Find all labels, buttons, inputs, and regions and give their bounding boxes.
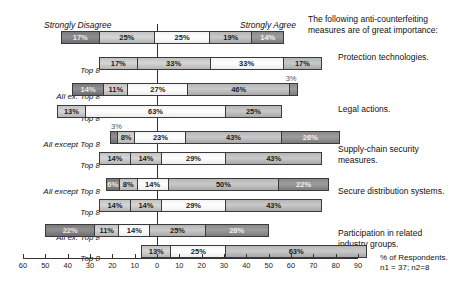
bar-segment: 17% bbox=[62, 32, 100, 43]
axis-tick-label: 30 bbox=[86, 261, 94, 270]
axis-tick bbox=[90, 254, 91, 258]
axis-tick-label: 0 bbox=[155, 261, 159, 270]
axis-tick-label: 50 bbox=[264, 261, 272, 270]
bar-segment: 17% bbox=[284, 58, 322, 69]
bar-segment-value: 11% bbox=[99, 227, 114, 235]
bar-segment: 63% bbox=[86, 106, 225, 117]
bar-segment-value: 29% bbox=[186, 155, 201, 163]
category-label-secure-distribution-systems: Secure distribution systems. bbox=[338, 186, 454, 197]
axis-tick bbox=[179, 254, 180, 258]
bar-segment-value: 14% bbox=[107, 155, 122, 163]
bar-segment: 43% bbox=[226, 200, 321, 211]
axis-title: % of Respondents. bbox=[380, 253, 448, 263]
axis-tick bbox=[68, 254, 69, 258]
bar-segment-value: 8% bbox=[121, 134, 132, 142]
axis-tick bbox=[202, 254, 203, 258]
bar-segment-value: 46% bbox=[231, 86, 246, 94]
bar-row: 14%14%29%43% bbox=[99, 199, 322, 212]
bar-segment-value: 25% bbox=[191, 248, 206, 256]
category-label-protection-technologies: Protection technologies. bbox=[338, 52, 454, 63]
bar-segment: 28% bbox=[206, 225, 268, 236]
sample-size-note: n1 = 37; n2=8 bbox=[380, 263, 429, 273]
axis-tick-label: 20 bbox=[108, 261, 116, 270]
axis-tick-label: 60 bbox=[19, 261, 27, 270]
bar-segment-value: 17% bbox=[295, 60, 310, 68]
bar-segment-value: 25% bbox=[119, 34, 134, 42]
bar-segment-value: 26% bbox=[303, 134, 318, 142]
bar-segment-value: 43% bbox=[266, 202, 281, 210]
bar-segment: 6% bbox=[107, 179, 120, 190]
bar-segment-value: 13% bbox=[64, 108, 79, 116]
axis-tick bbox=[291, 254, 292, 258]
bar-row: 6%8%14%50%22% bbox=[106, 178, 329, 191]
bar-segment: 33% bbox=[138, 58, 211, 69]
outside-value-label: 3% bbox=[286, 74, 297, 83]
bar-segment: 46% bbox=[188, 84, 290, 95]
bar-segment-value: 14% bbox=[145, 181, 160, 189]
bar-segment: 25% bbox=[226, 106, 281, 117]
axis-tick-label: 20 bbox=[197, 261, 205, 270]
bar-segment-value: 17% bbox=[111, 60, 126, 68]
bar-segment: 14% bbox=[131, 200, 162, 211]
axis-baseline bbox=[23, 258, 358, 259]
category-label-legal-actions: Legal actions. bbox=[338, 104, 454, 115]
bar-segment-value: 27% bbox=[150, 86, 165, 94]
bar-segment: 25% bbox=[100, 32, 155, 43]
bar-segment-value: 22% bbox=[63, 227, 78, 235]
bar-segment-value: 63% bbox=[148, 108, 163, 116]
bar-segment-value: 50% bbox=[216, 181, 231, 189]
likert-chart: Strongly Disagree Strongly Agree The fol… bbox=[0, 0, 458, 284]
bar-row: 8%23%43%26% bbox=[110, 131, 340, 144]
axis-tick bbox=[23, 254, 24, 258]
row-label-box-5: Top 8 bbox=[22, 154, 100, 172]
bar-segment: 17% bbox=[100, 58, 138, 69]
row-label-1: Top 8 bbox=[80, 66, 100, 75]
bar-row: 14%11%27%46% bbox=[72, 83, 298, 96]
axis-tick-label: 60 bbox=[287, 261, 295, 270]
axis-tick bbox=[224, 254, 225, 258]
bar-row: 13%25%63% bbox=[141, 245, 367, 258]
bar-segment-value: 25% bbox=[246, 108, 261, 116]
bar-segment-value: 14% bbox=[138, 155, 153, 163]
bar-segment: 22% bbox=[279, 179, 328, 190]
axis-tick bbox=[358, 254, 359, 258]
bar-segment: 43% bbox=[226, 153, 321, 164]
bar-segment: 11% bbox=[95, 225, 119, 236]
bar-segment-value: 43% bbox=[226, 134, 241, 142]
row-label-7: Top 8 bbox=[80, 208, 100, 217]
bar-segment-value: 14% bbox=[260, 34, 275, 42]
bar-row: 17%33%33%17% bbox=[99, 57, 322, 70]
bar-segment bbox=[290, 84, 297, 95]
bar-segment-value: 14% bbox=[138, 202, 153, 210]
bar-segment: 23% bbox=[135, 132, 186, 143]
bar-segment-value: 23% bbox=[153, 134, 168, 142]
bar-segment: 27% bbox=[128, 84, 188, 95]
bar-segment: 8% bbox=[118, 132, 136, 143]
axis-tick-label: 90 bbox=[354, 261, 362, 270]
axis-tick bbox=[246, 254, 247, 258]
bar-row: 13%63%25% bbox=[57, 105, 283, 118]
bar-segment-value: 17% bbox=[73, 34, 88, 42]
bar-segment-value: 14% bbox=[127, 227, 142, 235]
row-label-box-7: Top 8 bbox=[22, 201, 100, 219]
axis-tick bbox=[336, 254, 337, 258]
bar-segment: 50% bbox=[169, 179, 280, 190]
bar-row: 17%25%25%19%14% bbox=[61, 31, 284, 44]
bar-segment-value: 11% bbox=[109, 86, 124, 94]
bar-segment-value: 29% bbox=[186, 202, 201, 210]
bar-segment: 29% bbox=[162, 200, 226, 211]
axis-tick-label: 10 bbox=[130, 261, 138, 270]
bar-segment: 14% bbox=[119, 225, 150, 236]
bar-row: 22%11%14%25%28% bbox=[45, 224, 268, 237]
outside-value-label: 3% bbox=[111, 122, 122, 131]
bar-segment: 29% bbox=[162, 153, 226, 164]
axis-tick-label: 30 bbox=[220, 261, 228, 270]
bar-segment: 25% bbox=[150, 225, 205, 236]
category-label-supply-chain-security-measures: Supply-chain security measures. bbox=[338, 144, 454, 165]
bar-segment: 14% bbox=[100, 200, 131, 211]
bar-segment-value: 14% bbox=[107, 202, 122, 210]
bar-segment: 14% bbox=[138, 179, 169, 190]
bar-segment: 25% bbox=[155, 32, 210, 43]
axis-tick-label: 80 bbox=[331, 261, 339, 270]
bar-segment: 14% bbox=[252, 32, 283, 43]
